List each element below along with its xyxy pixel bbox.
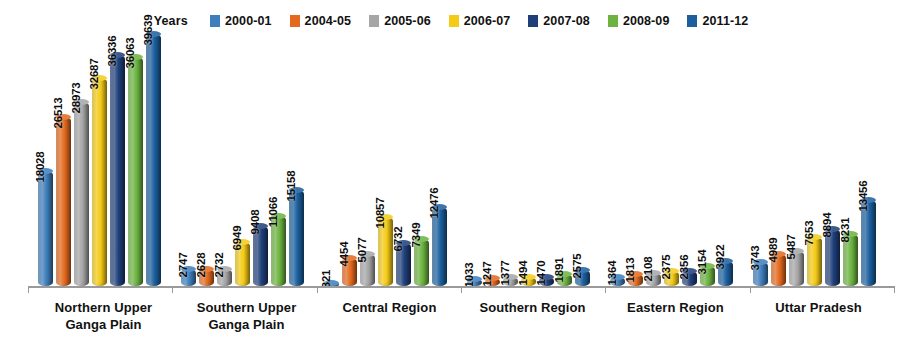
legend-item-label: 2008-09: [623, 14, 670, 28]
bar-uttar-pradesh-2007-08[interactable]: 8894: [825, 229, 840, 286]
bar-value-label: 12476: [428, 187, 440, 218]
bar-uttar-pradesh-2000-01[interactable]: 3743: [753, 262, 768, 286]
bar-central-region-2006-07[interactable]: 10857: [378, 217, 393, 286]
bar-northern-upper-ganga-plain-2007-08[interactable]: 36336: [110, 55, 125, 286]
bar-eastern-region-2004-05[interactable]: 1813: [628, 274, 643, 286]
bar-central-region-2004-05[interactable]: 4454: [342, 258, 357, 286]
bar-eastern-region-2011-12[interactable]: 3922: [718, 261, 733, 286]
legend-item-2005-06[interactable]: 2005-06: [369, 14, 431, 28]
legend-item-2004-05[interactable]: 2004-05: [290, 14, 352, 28]
bar-southern-region-2004-05[interactable]: 1247: [485, 278, 500, 286]
bar-southern-upper-ganga-plain-2005-06[interactable]: 2732: [217, 269, 232, 286]
bar-body: [432, 207, 447, 286]
legend-item-2006-07[interactable]: 2006-07: [449, 14, 511, 28]
bar-northern-upper-ganga-plain-2005-06[interactable]: 28973: [74, 102, 89, 286]
bar-value-label: 1377: [499, 261, 511, 286]
plot-area: 1802826513289733268736336360633963927472…: [32, 28, 890, 286]
bar-eastern-region-2000-01[interactable]: 1364: [610, 277, 625, 286]
bar-value-label: 36063: [124, 37, 136, 68]
bar-central-region-2011-12[interactable]: 12476: [432, 207, 447, 286]
bar-eastern-region-2008-09[interactable]: 3154: [700, 266, 715, 286]
legend-item-2007-08[interactable]: 2007-08: [528, 14, 590, 28]
bar-southern-region-2005-06[interactable]: 1377: [503, 277, 518, 286]
bar-uttar-pradesh-2004-05[interactable]: 4989: [771, 254, 786, 286]
bar-northern-upper-ganga-plain-2004-05[interactable]: 26513: [56, 117, 71, 286]
legend-title: Years: [154, 14, 188, 28]
bar-chart: Years 2000-012004-052005-062006-072007-0…: [0, 0, 902, 346]
category-label-line: Northern Upper: [32, 299, 175, 316]
bar-body: [128, 57, 143, 286]
axis-tick: [750, 286, 751, 293]
category-label-eastern-region: Eastern Region: [604, 299, 747, 316]
bar-value-label: 9408: [249, 210, 261, 235]
bar-value-label: 5077: [356, 237, 368, 262]
bar-northern-upper-ganga-plain-2011-12[interactable]: 39639: [146, 34, 161, 286]
axis-tick: [28, 286, 29, 293]
bar-eastern-region-2006-07[interactable]: 2375: [664, 271, 679, 286]
bar-body: [825, 229, 840, 286]
bar-value-label: 1033: [463, 263, 475, 288]
legend-item-label: 2006-07: [464, 14, 511, 28]
category-label-southern-upper-ganga-plain: Southern UpperGanga Plain: [175, 299, 318, 333]
bar-value-label: 4454: [338, 241, 350, 266]
category-label-northern-upper-ganga-plain: Northern UpperGanga Plain: [32, 299, 175, 333]
bar-uttar-pradesh-2008-09[interactable]: 8231: [843, 234, 858, 286]
bar-body: [56, 117, 71, 286]
bar-group: 274726282732694994081106615158: [181, 28, 304, 286]
bar-value-label: 7653: [803, 221, 815, 246]
bar-southern-upper-ganga-plain-2008-09[interactable]: 11066: [271, 216, 286, 286]
legend-item-2011-12[interactable]: 2011-12: [687, 14, 748, 28]
bar-southern-upper-ganga-plain-2000-01[interactable]: 2747: [181, 269, 196, 286]
bar-southern-upper-ganga-plain-2004-05[interactable]: 2628: [199, 269, 214, 286]
bar-southern-region-2006-07[interactable]: 1494: [521, 277, 536, 286]
bar-value-label: 2747: [177, 252, 189, 277]
bar-value-label: 1891: [553, 258, 565, 283]
legend-item-label: 2011-12: [702, 14, 748, 28]
legend-item-2008-09[interactable]: 2008-09: [608, 14, 670, 28]
bar-value-label: 2732: [213, 252, 225, 277]
bar-southern-region-2011-12[interactable]: 2575: [575, 270, 590, 286]
axis-tick: [461, 286, 462, 293]
category-label-line: Ganga Plain: [175, 316, 318, 333]
bar-body: [110, 55, 125, 286]
bar-uttar-pradesh-2006-07[interactable]: 7653: [807, 237, 822, 286]
legend-items: 2000-012004-052005-062006-072007-082008-…: [210, 14, 748, 28]
legend-item-label: 2007-08: [543, 14, 590, 28]
bar-eastern-region-2005-06[interactable]: 2108: [646, 273, 661, 286]
bar-value-label: 2356: [678, 255, 690, 280]
bar-value-label: 8231: [839, 217, 851, 242]
bar-value-label: 6949: [231, 225, 243, 250]
bar-central-region-2007-08[interactable]: 6732: [396, 243, 411, 286]
bar-value-label: 7349: [410, 223, 422, 248]
axis-tick: [172, 286, 173, 293]
bar-value-label: 1247: [481, 262, 493, 287]
bar-uttar-pradesh-2005-06[interactable]: 5487: [789, 251, 804, 286]
bar-eastern-region-2007-08[interactable]: 2356: [682, 271, 697, 286]
bar-group: 1364181321082375235631543922: [610, 28, 733, 286]
bar-central-region-2008-09[interactable]: 7349: [414, 239, 429, 286]
legend-item-label: 2005-06: [384, 14, 431, 28]
legend-swatch-icon: [369, 15, 379, 27]
bar-southern-region-2008-09[interactable]: 1891: [557, 274, 572, 286]
bar-southern-region-2007-08[interactable]: 1470: [539, 277, 554, 286]
bar-value-label: 28973: [70, 82, 82, 113]
bar-northern-upper-ganga-plain-2000-01[interactable]: 18028: [38, 171, 53, 286]
bar-body: [92, 78, 107, 286]
category-label-line: Uttar Pradesh: [747, 299, 890, 316]
bar-southern-upper-ganga-plain-2011-12[interactable]: 15158: [289, 190, 304, 286]
axis-tick: [894, 286, 895, 293]
bar-uttar-pradesh-2011-12[interactable]: 13456: [861, 200, 876, 286]
bar-northern-upper-ganga-plain-2006-07[interactable]: 32687: [92, 78, 107, 286]
bar-northern-upper-ganga-plain-2008-09[interactable]: 36063: [128, 57, 143, 286]
bar-southern-upper-ganga-plain-2006-07[interactable]: 6949: [235, 242, 250, 286]
bar-group: 37434989548776538894823113456: [753, 28, 876, 286]
bar-southern-upper-ganga-plain-2007-08[interactable]: 9408: [253, 226, 268, 286]
bar-value-label: 10857: [374, 197, 386, 228]
bar-value-label: 3154: [696, 250, 708, 275]
bar-value-label: 26513: [52, 98, 64, 129]
bar-central-region-2005-06[interactable]: 5077: [360, 254, 375, 286]
bar-value-label: 2575: [571, 253, 583, 278]
bar-value-label: 36336: [106, 36, 118, 67]
legend-item-2000-01[interactable]: 2000-01: [210, 14, 272, 28]
bar-body: [38, 171, 53, 286]
